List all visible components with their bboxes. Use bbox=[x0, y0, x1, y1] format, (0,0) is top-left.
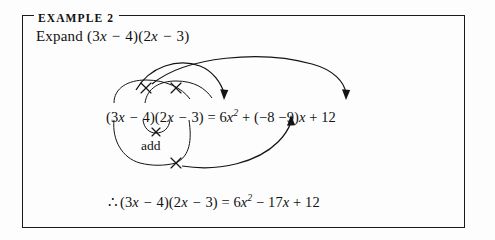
example-title-container: EXAMPLE 2 bbox=[34, 8, 119, 23]
instruction-prefix: Expand bbox=[36, 28, 87, 44]
answer-left-num: 4)(2 bbox=[157, 194, 182, 210]
instruction-open: (3 bbox=[87, 28, 100, 44]
instruction-num-2: 3) bbox=[177, 28, 190, 44]
working-left-op: − bbox=[125, 109, 143, 125]
instruction-var-2: x bbox=[151, 28, 158, 44]
working-middle: + (−8 −9) bbox=[238, 109, 299, 125]
answer-right-op: − bbox=[188, 194, 206, 210]
instruction-num-1: 4)(2 bbox=[125, 28, 151, 44]
working-right-var: x bbox=[167, 109, 174, 125]
answer-left-open: (3 bbox=[120, 194, 132, 210]
answer-middle: − 17 bbox=[252, 194, 282, 210]
instruction-var-1: x bbox=[100, 28, 107, 44]
working-equals: = 6 bbox=[204, 109, 227, 125]
working-left-open: (3 bbox=[106, 109, 118, 125]
instruction-op-1: − bbox=[107, 28, 126, 44]
example-title: EXAMPLE 2 bbox=[38, 12, 114, 24]
working-right-op: − bbox=[174, 109, 192, 125]
working-line: (3x − 4)(2x − 3) = 6x2 + (−8 −9)x + 12 bbox=[106, 104, 336, 126]
answer-right-var: x bbox=[181, 194, 188, 210]
working-left-var: x bbox=[118, 109, 125, 125]
answer-left-var: x bbox=[132, 194, 139, 210]
answer-right-num: 3) bbox=[205, 194, 217, 210]
working-tail: + 12 bbox=[305, 109, 335, 125]
instruction-op-2: − bbox=[158, 28, 177, 44]
example-figure: EXAMPLE 2 Expand (3x − 4)(2x − 3) (3x − … bbox=[0, 0, 495, 240]
answer-tail: + 12 bbox=[289, 194, 319, 210]
instruction-line: Expand (3x − 4)(2x − 3) bbox=[36, 27, 189, 46]
answer-left-op: − bbox=[139, 194, 157, 210]
therefore-symbol: ∴ bbox=[108, 194, 120, 210]
working-right-num: 3) bbox=[191, 109, 203, 125]
answer-line: ∴(3x − 4)(2x − 3) = 6x2 − 17x + 12 bbox=[108, 189, 320, 211]
working-left-num: 4)(2 bbox=[143, 109, 168, 125]
add-label: add bbox=[141, 138, 161, 154]
answer-equals: = 6 bbox=[218, 194, 241, 210]
